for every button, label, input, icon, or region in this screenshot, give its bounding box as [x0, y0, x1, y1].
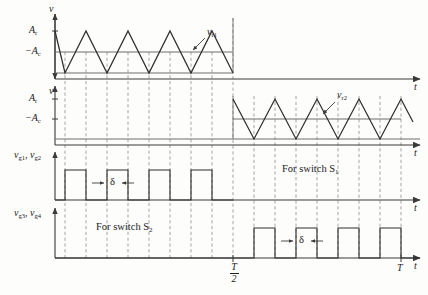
panel-1-amplitude-ac: −Ac — [25, 46, 41, 57]
panel-2-v-axis-label: v — [49, 86, 53, 96]
delta-symbol-panel-3: δ — [110, 177, 115, 188]
pwm-waveform-figure: v Ar −Ac vr1 t v Ar −Ac vr2 t vg1, vg2 δ… — [0, 0, 428, 295]
panel-1-t-axis-label: t — [414, 82, 417, 92]
waveform-label-vr1: vr1 — [207, 27, 217, 38]
panel-1-v-axis-label: v — [49, 4, 53, 14]
vr2-pointer-arrow — [323, 102, 335, 114]
half-period-numerator: T — [226, 262, 242, 273]
panel-2-t-axis-label: t — [414, 148, 417, 158]
panel-4-v-axis-label: vg3, vg4 — [14, 208, 41, 219]
panel-2-amplitude-ar: Ar — [29, 93, 37, 104]
time-marker-half-period: T 2 — [226, 262, 242, 284]
waveform-label-vr2: vr2 — [337, 90, 347, 101]
note-for-switch-s1: For switch S1 — [282, 164, 339, 176]
delta-symbol-panel-4: δ — [299, 235, 304, 246]
waveform-vg1-vg2 — [55, 170, 233, 200]
panel-1-axes — [52, 14, 420, 79]
note-for-switch-s2: For switch S2 — [96, 222, 153, 234]
panel-1-amplitude-ar: Ar — [29, 25, 37, 36]
panel-2-amplitude-ac: −Ac — [25, 113, 41, 124]
panel-3-t-axis-label: t — [414, 203, 417, 213]
panel-3-v-axis-label: vg1, vg2 — [14, 150, 41, 161]
waveform-canvas — [0, 0, 428, 295]
time-marker-full-period: T — [397, 263, 403, 273]
panel-4-t-axis-label: t — [414, 261, 417, 271]
half-period-denominator: 2 — [226, 274, 242, 285]
